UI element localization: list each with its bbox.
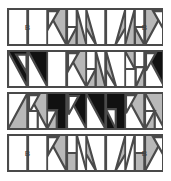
- row-1: BB: [7, 8, 163, 46]
- quilt-block-diagram: BBBB: [0, 0, 171, 181]
- row-3-hst-gray-tr-r3: [8, 93, 28, 129]
- row-1-gray-step-left: [67, 9, 87, 45]
- row-3-gray-step-r3b: [145, 93, 164, 129]
- row-4-hst-gray-tr-r4: [145, 135, 164, 171]
- row-4-gray-step-left-r4: [67, 135, 87, 171]
- row-2-gray-step-right-r2: [125, 51, 145, 87]
- row-4-plain-white-left-b-r4: [28, 135, 48, 171]
- row-1-inner: BB: [8, 9, 162, 45]
- row-1-plain-white-left-b: [28, 9, 48, 45]
- row-3-hst-black-tl-r3: [86, 93, 106, 129]
- row-1-hst-gray-top-right: [145, 9, 164, 45]
- row-2-hst-gray-top-left-r2: [67, 51, 87, 87]
- row-2-plain-white-r2: [47, 51, 67, 87]
- row-3-inner: [8, 93, 162, 129]
- row-2-hst-black-notch-left: [8, 51, 28, 87]
- row-2-gray-step-left-r2: [86, 51, 106, 87]
- row-4-chevron-down-r4-left: [86, 135, 106, 171]
- row-1-chevron-down-right: [106, 9, 126, 45]
- row-2: [7, 50, 163, 88]
- row-3-notch-black-r3b: [106, 93, 126, 129]
- row-4-plain-white-left-a-r4: [8, 135, 28, 171]
- row-1-hst-gray-top-left: [47, 9, 67, 45]
- row-4-chevron-down-r4-right: [106, 135, 126, 171]
- row-4-hst-gray-tl-r4: [47, 135, 67, 171]
- row-2-hst-black-right-r2: [145, 51, 164, 87]
- row-3: [7, 92, 163, 130]
- row-3-hst-gray-tl-r3: [125, 93, 145, 129]
- row-1-gray-step-right: [125, 9, 145, 45]
- row-1-chevron-down-left: [86, 9, 106, 45]
- row-4: BB: [7, 134, 163, 172]
- row-2-hst-black-fill: [28, 51, 48, 87]
- row-1-plain-white-left-a: [8, 9, 28, 45]
- row-3-notch-black-r3: [67, 93, 87, 129]
- row-2-inner: [8, 51, 162, 87]
- row-4-gray-step-right-r4: [125, 135, 145, 171]
- row-3-gray-step-r3: [28, 93, 48, 129]
- row-2-chevron-down-r2-left: [106, 51, 126, 87]
- row-3-hst-black-tr-r3: [47, 93, 67, 129]
- row-4-inner: BB: [8, 135, 162, 171]
